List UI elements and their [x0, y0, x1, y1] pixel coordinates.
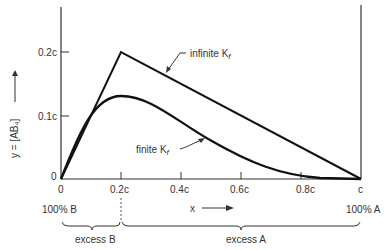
annotation-infinite-kf: infinite Kf [190, 48, 231, 61]
annotation-arrow [180, 140, 202, 149]
x-tick-label: 0.2c [110, 184, 129, 195]
x-tick-label: 0.6c [230, 184, 249, 195]
series-infinite-kf [61, 52, 361, 179]
brace-excess-a [122, 222, 360, 230]
annotation-finite-kf: finite Kf [136, 144, 170, 157]
y-axis-label: y = [AB₄] [9, 118, 20, 158]
x-tick-label: 0 [58, 184, 64, 195]
label-excess-b: excess B [75, 234, 116, 245]
x-tick-label: 0.8c [296, 184, 315, 195]
x-axis-label: x [190, 203, 195, 214]
label-100-b: 100% B [42, 204, 77, 215]
label-excess-a: excess A [226, 234, 266, 245]
arrow-up-icon-head [12, 70, 18, 76]
y-tick-label: 0.2c [38, 47, 57, 58]
brace-excess-b [62, 222, 120, 230]
series-finite-kf [61, 96, 361, 179]
chart: 0.2c 0.1c 0 0 0.2c 0.4c 0.6c 0.8c c y = … [0, 0, 391, 250]
annotation-arrow [168, 53, 186, 70]
y-tick-label: 0.1c [38, 111, 57, 122]
x-tick-label: c [358, 184, 363, 195]
y-tick-label: 0 [51, 171, 57, 182]
arrow-right-icon-head [226, 205, 234, 211]
label-100-a: 100% A [346, 204, 381, 215]
y-axis-label-group: y = [AB₄] [9, 70, 20, 158]
x-tick-label: 0.4c [170, 184, 189, 195]
